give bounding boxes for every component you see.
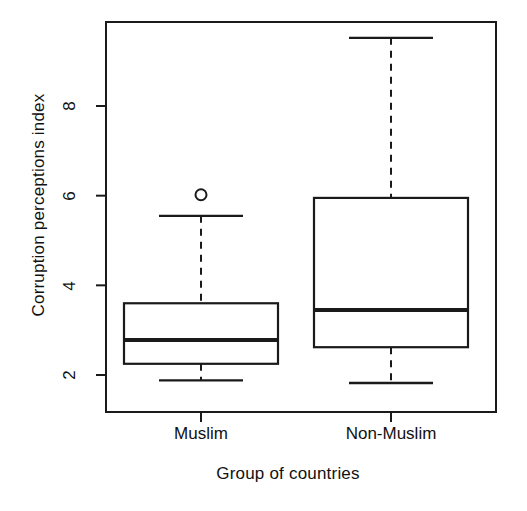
box-non-muslim (314, 38, 468, 383)
outlier-point-muslim-0 (196, 189, 207, 200)
plot-canvas (0, 0, 527, 511)
box-rect-muslim (124, 303, 278, 364)
boxplot-figure: Corruption perceptions index Group of co… (0, 0, 527, 511)
box-group (124, 38, 468, 383)
box-rect-non-muslim (314, 198, 468, 347)
y-axis-ticks (96, 106, 106, 375)
x-axis-ticks (201, 412, 391, 422)
box-muslim (124, 189, 278, 380)
